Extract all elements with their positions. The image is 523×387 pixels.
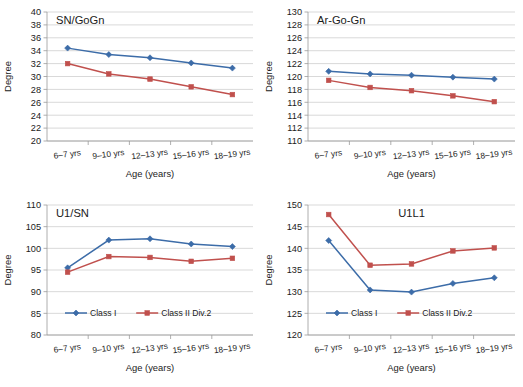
y-tick-label: 80 [31, 330, 41, 340]
y-tick-label: 22 [31, 123, 41, 133]
data-point-1-1 [368, 85, 373, 90]
y-tick-label: 125 [287, 309, 302, 319]
data-point-1-0 [326, 78, 331, 83]
data-point-0-4 [229, 65, 235, 71]
data-point-0-2 [409, 289, 415, 295]
y-tick-label: 100 [26, 244, 41, 254]
x-category-label: 12–13 yrs [131, 341, 169, 355]
chart-svg-0: 20222426283032343638406–7 yrs9–10 yrs12–… [0, 0, 261, 193]
y-axis-title: Degree [263, 255, 274, 286]
chart-title: Ar-Go-Gn [317, 14, 366, 26]
data-point-1-3 [189, 259, 194, 264]
y-tick-label: 122 [287, 59, 302, 69]
y-tick-label: 38 [31, 20, 41, 30]
x-category-label: 15–16 yrs [434, 147, 472, 161]
data-point-0-4 [491, 76, 497, 82]
y-tick-label: 105 [26, 222, 41, 232]
chart-panel-sn-gogn: 20222426283032343638406–7 yrs9–10 yrs12–… [0, 0, 261, 193]
data-point-0-1 [106, 52, 112, 58]
y-tick-label: 20 [31, 136, 41, 146]
chart-panel-u1l1: 1201251301351401451506–7 yrs9–10 yrs12–1… [261, 193, 523, 387]
legend-label-1: Class II Div.2 [161, 308, 211, 318]
legend-marker-0 [334, 310, 340, 316]
data-point-0-2 [147, 236, 153, 242]
data-point-1-1 [368, 263, 373, 268]
x-category-label: 6–7 yrs [53, 341, 81, 354]
x-category-label: 9–10 yrs [353, 147, 386, 161]
y-tick-label: 34 [31, 46, 41, 56]
y-tick-label: 135 [287, 265, 302, 275]
x-category-label: 15–16 yrs [434, 341, 472, 355]
chart-svg-2: 808590951001051106–7 yrs9–10 yrs12–13 yr… [0, 193, 261, 387]
data-point-1-1 [107, 72, 112, 77]
data-point-0-3 [188, 60, 194, 66]
data-point-0-3 [450, 74, 456, 80]
x-category-label: 6–7 yrs [314, 341, 342, 354]
data-point-1-2 [409, 88, 414, 93]
legend-marker-1 [145, 311, 150, 316]
data-point-0-4 [491, 275, 497, 281]
data-point-1-0 [65, 270, 70, 275]
x-category-label: 15–16 yrs [172, 147, 210, 161]
x-category-label: 12–13 yrs [392, 147, 430, 161]
y-tick-label: 150 [287, 200, 302, 210]
y-tick-label: 140 [287, 244, 302, 254]
data-point-0-0 [65, 45, 71, 51]
data-point-1-2 [409, 262, 414, 267]
x-category-label: 6–7 yrs [314, 147, 342, 160]
legend-label-1: Class II Div.2 [422, 308, 472, 318]
legend-marker-1 [406, 311, 411, 316]
data-point-1-0 [326, 212, 331, 217]
y-tick-label: 124 [287, 46, 302, 56]
chart-panel-u1-sn: 808590951001051106–7 yrs9–10 yrs12–13 yr… [0, 193, 261, 387]
x-category-label: 18–19 yrs [475, 341, 513, 355]
y-tick-label: 30 [31, 72, 41, 82]
legend-label-0: Class I [90, 308, 116, 318]
x-axis-title: Age (years) [387, 362, 435, 373]
data-point-1-3 [451, 249, 456, 254]
chart-grid: 20222426283032343638406–7 yrs9–10 yrs12–… [0, 0, 523, 387]
data-point-1-4 [492, 246, 497, 251]
x-category-label: 18–19 yrs [213, 341, 251, 355]
y-tick-label: 118 [287, 85, 302, 95]
x-axis-title: Age (years) [126, 168, 174, 179]
data-point-0-0 [326, 68, 332, 74]
data-point-0-1 [367, 71, 373, 77]
y-tick-label: 114 [287, 111, 302, 121]
data-point-1-3 [189, 85, 194, 90]
x-category-label: 9–10 yrs [353, 341, 386, 355]
y-tick-label: 145 [287, 222, 302, 232]
y-tick-label: 24 [31, 111, 41, 121]
data-point-1-3 [451, 94, 456, 99]
data-point-0-2 [409, 72, 415, 78]
series-line-1 [329, 215, 495, 266]
x-category-label: 9–10 yrs [92, 147, 125, 161]
y-tick-label: 120 [287, 330, 302, 340]
x-category-label: 12–13 yrs [131, 147, 169, 161]
x-category-label: 18–19 yrs [475, 147, 513, 161]
chart-title: U1/SN [56, 207, 89, 219]
data-point-0-3 [188, 241, 194, 247]
y-tick-label: 32 [31, 59, 41, 69]
y-axis-title: Degree [263, 61, 274, 92]
data-point-1-2 [148, 77, 153, 82]
data-point-0-4 [229, 244, 235, 250]
y-tick-label: 120 [287, 72, 302, 82]
data-point-1-2 [148, 255, 153, 260]
x-axis-title: Age (years) [387, 168, 435, 179]
x-category-label: 6–7 yrs [53, 147, 81, 160]
chart-title: SN/GoGn [56, 14, 105, 26]
data-point-0-2 [147, 55, 153, 61]
chart-svg-3: 1201251301351401451506–7 yrs9–10 yrs12–1… [261, 193, 523, 387]
y-tick-label: 112 [287, 123, 302, 133]
data-point-1-4 [492, 99, 497, 104]
x-category-label: 9–10 yrs [92, 341, 125, 355]
y-tick-label: 28 [31, 85, 41, 95]
y-tick-label: 90 [31, 287, 41, 297]
y-tick-label: 130 [287, 287, 302, 297]
data-point-0-3 [450, 280, 456, 286]
y-tick-label: 116 [287, 98, 302, 108]
x-axis-title: Age (years) [126, 362, 174, 373]
x-category-label: 15–16 yrs [172, 341, 210, 355]
y-tick-label: 40 [31, 7, 41, 17]
